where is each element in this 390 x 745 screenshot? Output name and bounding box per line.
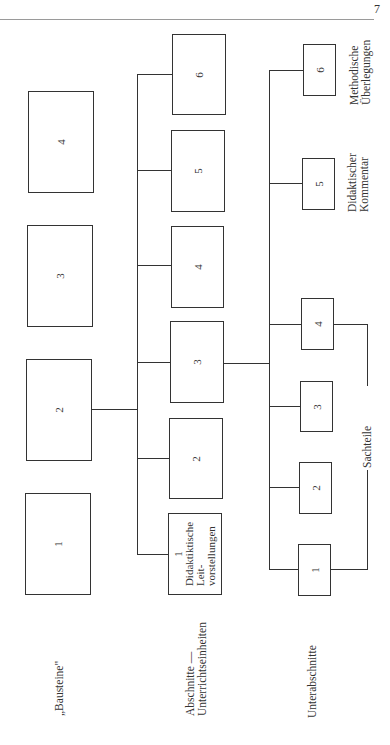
didaktischer-kommentar-label: Didaktischer Kommentar: [346, 153, 370, 212]
box-number: 5: [313, 181, 325, 187]
baustein-box-4: 4: [28, 91, 94, 193]
box-number: 2: [310, 485, 322, 491]
box-number: 2: [190, 456, 202, 462]
box-number: 6: [314, 67, 326, 73]
unterabschnitt-box-1: 1: [298, 544, 331, 596]
abschnitte-trunk: [137, 74, 138, 555]
box-number: 1: [309, 567, 321, 573]
box-number: 2: [53, 407, 65, 413]
connector: [137, 74, 172, 75]
sachteile-bracket-top: [334, 324, 368, 325]
box-number: 3: [191, 359, 203, 365]
row-label-abschnitte: Abschnitte — Unterrichtseinheiten: [184, 622, 208, 716]
sachteile-bracket-line: [367, 470, 368, 570]
unterabschnitt-box-4: 4: [301, 298, 334, 350]
connector: [269, 406, 300, 407]
box-number: 4: [55, 139, 67, 145]
abschnitt-box-2: 2: [169, 418, 223, 499]
connector: [137, 265, 171, 266]
abschnitt-box-6: 6: [172, 34, 226, 115]
connector: [137, 554, 168, 555]
page-rule: [0, 19, 374, 20]
connector: [137, 458, 169, 459]
page-number: 7: [374, 2, 380, 17]
baustein-box-3: 3: [27, 225, 93, 327]
unterabschnitt-box-6: 6: [303, 44, 336, 96]
box-number: 3: [311, 404, 323, 410]
sachteile-bracket-bottom: [331, 569, 368, 570]
connector: [269, 569, 298, 570]
connector: [269, 70, 303, 71]
abschnitt-box-1: 1 Didaktiktische Leit- vorstellungen: [168, 513, 222, 595]
baustein-box-2: 2: [26, 359, 92, 461]
connector: [137, 362, 170, 363]
row-label-unterabschnitte: Unterabschnitte: [306, 645, 318, 718]
baustein-box-1: 1: [25, 493, 91, 595]
connector: [224, 363, 269, 364]
methodische-ueberlegungen-label: Methodische Überlegungen: [348, 40, 372, 105]
connector: [269, 324, 301, 325]
box-number: 6: [193, 72, 205, 78]
box-number: 4: [312, 321, 324, 327]
box-number: 5: [192, 168, 204, 174]
unterabschnitte-trunk: [269, 70, 270, 570]
unterabschnitt-box-2: 2: [299, 462, 332, 514]
sachteile-bracket-line: [367, 324, 368, 386]
connector: [269, 183, 302, 184]
box-text: 1 Didaktiktische Leit- vorstellungen: [173, 522, 217, 586]
box-number: 3: [54, 273, 66, 279]
box-number: 4: [192, 264, 204, 270]
sachteile-label: Sachteile: [361, 426, 373, 468]
box-number: 1: [52, 541, 64, 547]
connector: [92, 409, 138, 410]
abschnitt-box-5: 5: [171, 130, 225, 212]
row-label-bausteine: „Bausteine": [53, 661, 65, 716]
abschnitt-box-3: 3: [170, 321, 224, 403]
connector: [269, 487, 299, 488]
abschnitt-box-4: 4: [171, 226, 224, 308]
unterabschnitt-box-5: 5: [302, 158, 335, 210]
unterabschnitt-box-3: 3: [300, 381, 333, 432]
connector: [137, 170, 171, 171]
